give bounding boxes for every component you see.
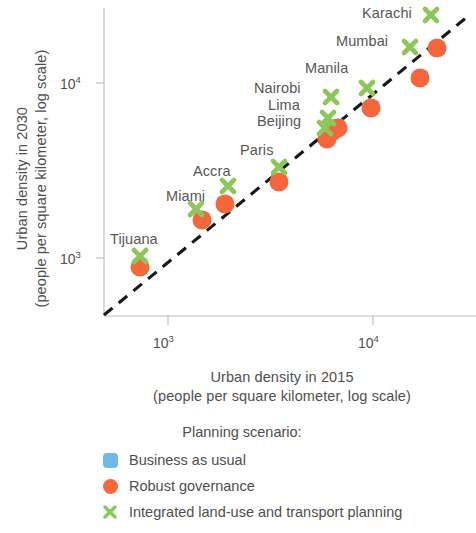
legend-item-business-as-usual[interactable]: Business as usual bbox=[0, 447, 476, 473]
point-integrated-nairobi bbox=[325, 91, 337, 103]
city-label-manila: Manila bbox=[305, 60, 348, 76]
x-tick-1k-mantissa: 10 bbox=[153, 335, 169, 351]
city-label-nairobi: Nairobi bbox=[254, 80, 301, 96]
y-tick-1k-exp: 3 bbox=[76, 249, 81, 260]
point-integrated-manila bbox=[361, 82, 373, 94]
chart-figure: Urban density in 2030 (people per square… bbox=[0, 0, 476, 533]
y-tick-label-10k: 104 bbox=[60, 74, 81, 92]
x-axis-title-line1: Urban density in 2015 bbox=[210, 369, 353, 385]
city-label-karachi: Karachi bbox=[362, 5, 412, 21]
x-tick-1k-exp: 3 bbox=[169, 333, 174, 344]
x-axis-title-line2: (people per square kilometer, log scale) bbox=[153, 388, 411, 404]
city-label-mumbai: Mumbai bbox=[336, 33, 388, 49]
point-robust-accra bbox=[216, 195, 235, 214]
legend-label-robust-governance: Robust governance bbox=[129, 478, 255, 494]
x-tick-label-10k: 104 bbox=[358, 333, 379, 351]
legend-circle-icon bbox=[100, 476, 120, 496]
legend-square-icon bbox=[100, 450, 120, 470]
reference-line-dashed bbox=[104, 17, 467, 315]
legend-item-robust-governance[interactable]: Robust governance bbox=[0, 473, 476, 499]
x-tick-10k-mantissa: 10 bbox=[358, 335, 374, 351]
legend-item-integrated-planning[interactable]: Integrated land-use and transport planni… bbox=[0, 499, 476, 525]
x-axis-title: Urban density in 2015 (people per square… bbox=[88, 368, 476, 405]
point-integrated-mumbai bbox=[404, 41, 416, 53]
city-label-accra: Accra bbox=[193, 163, 231, 179]
city-label-lima: Lima bbox=[268, 97, 300, 113]
y-tick-10k-mantissa: 10 bbox=[60, 76, 76, 92]
point-robust-manila bbox=[362, 99, 381, 118]
series-integrated-planning bbox=[134, 9, 437, 262]
legend-x-icon bbox=[100, 502, 120, 522]
point-robust-karachi bbox=[428, 39, 447, 58]
legend-label-business-as-usual: Business as usual bbox=[129, 452, 246, 468]
point-integrated-accra bbox=[222, 180, 234, 192]
point-integrated-karachi bbox=[425, 9, 437, 21]
point-robust-mumbai bbox=[411, 69, 430, 88]
legend-label-integrated-planning: Integrated land-use and transport planni… bbox=[129, 504, 402, 520]
series-business-as-usual bbox=[133, 41, 445, 273]
city-label-beijing: Beijing bbox=[257, 113, 301, 129]
y-axis-title-line2: (people per square kilometer, log scale) bbox=[33, 50, 49, 308]
point-robust-paris bbox=[270, 173, 289, 192]
x-tick-10k-exp: 4 bbox=[374, 333, 379, 344]
chart-legend: Planning scenario: Business as usual Rob… bbox=[0, 424, 476, 525]
city-label-miami: Miami bbox=[166, 188, 205, 204]
y-tick-label-1k: 103 bbox=[60, 249, 81, 267]
y-tick-10k-exp: 4 bbox=[76, 74, 81, 85]
x-tick-label-1k: 103 bbox=[153, 333, 174, 351]
y-axis-title: Urban density in 2030 (people per square… bbox=[13, 24, 50, 334]
y-tick-1k-mantissa: 10 bbox=[60, 251, 76, 267]
legend-title: Planning scenario: bbox=[0, 424, 476, 440]
city-label-paris: Paris bbox=[240, 142, 274, 158]
y-axis-title-line1: Urban density in 2030 bbox=[14, 107, 30, 250]
city-label-tijuana: Tijuana bbox=[110, 231, 158, 247]
